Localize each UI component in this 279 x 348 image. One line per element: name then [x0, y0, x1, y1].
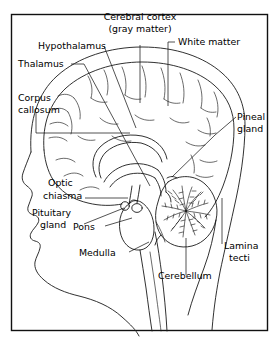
- label-medulla: Medulla: [79, 247, 116, 258]
- label-pineal-gland-line2: gland: [237, 123, 263, 134]
- label-hypothalamus: Hypothalamus: [38, 40, 106, 51]
- label-pituitary-gland-line1: Pituitary: [32, 207, 72, 218]
- label-lamina-tecti-line2: tecti: [229, 252, 250, 263]
- brain-anatomy-figure: Cerebral cortex (gray matter) Hypothalam…: [0, 0, 279, 348]
- label-thalamus: Thalamus: [17, 58, 64, 69]
- label-lamina-tecti-line1: Lamina: [224, 240, 258, 251]
- label-pineal-gland-line1: Pineal: [237, 111, 265, 122]
- label-pituitary-gland-line2: gland: [40, 219, 66, 230]
- label-corpus-callosum-line2: callosum: [18, 104, 60, 115]
- label-optic-chiasma-line2: chiasma: [43, 190, 82, 201]
- diagram-canvas: Cerebral cortex (gray matter) Hypothalam…: [0, 0, 279, 348]
- label-pons: Pons: [73, 221, 95, 232]
- label-cerebellum: Cerebellum: [158, 270, 212, 281]
- label-corpus-callosum-line1: Corpus: [18, 92, 51, 103]
- label-cerebral-cortex-line2: (gray matter): [108, 23, 171, 34]
- label-white-matter: White matter: [178, 36, 240, 47]
- label-cerebral-cortex-line1: Cerebral cortex: [104, 11, 177, 22]
- label-optic-chiasma-line1: Optic: [48, 177, 73, 188]
